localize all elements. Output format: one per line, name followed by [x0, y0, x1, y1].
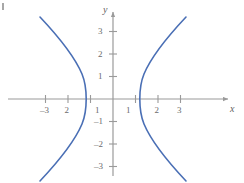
y-tick-label-2: 2: [98, 50, 103, 59]
x-tick-label--3: –3: [40, 106, 49, 115]
y-axis-label: y: [103, 5, 107, 15]
x-tick-label-3: 3: [177, 106, 182, 115]
hyperbola-figure: –3 2 1 1 2 3 3 2 1 –1 –2 –3 x y: [0, 0, 244, 183]
axes: [8, 12, 228, 176]
x-tick-label--1: 1: [95, 106, 100, 115]
y-tick-label--1: –1: [94, 117, 103, 126]
x-tick-label-2: 2: [155, 106, 160, 115]
y-tick-label--3: –3: [94, 162, 103, 171]
x-tick-label--2: 2: [65, 106, 70, 115]
plot-canvas: [0, 0, 244, 183]
y-tick-label-1: 1: [98, 72, 103, 81]
x-tick-label-1: 1: [126, 106, 131, 115]
y-tick-label--2: –2: [94, 140, 103, 149]
x-axis-label: x: [230, 104, 234, 114]
y-tick-label-3: 3: [98, 27, 103, 36]
